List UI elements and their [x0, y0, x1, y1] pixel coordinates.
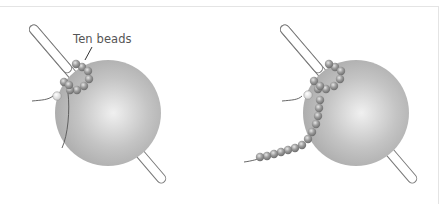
- label-leader-line: [85, 47, 92, 60]
- left-panel: [28, 23, 168, 185]
- ten-beads-label: Ten beads: [73, 32, 132, 46]
- right-panel: [244, 23, 419, 185]
- ball-icon: [55, 60, 161, 166]
- beading-diagram: [0, 0, 445, 204]
